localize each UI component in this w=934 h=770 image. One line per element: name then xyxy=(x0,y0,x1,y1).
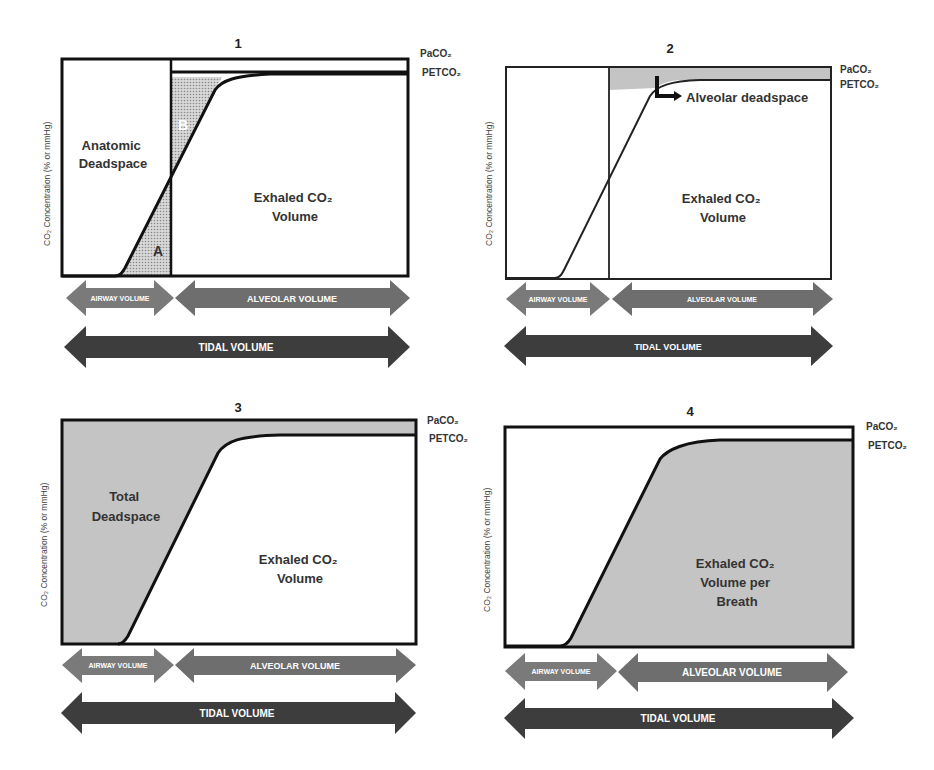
petco2-label: PETCO₂ xyxy=(840,79,879,90)
tidal-volume-label: TIDAL VOLUME xyxy=(634,342,701,352)
tidal-volume-label: TIDAL VOLUME xyxy=(200,708,275,719)
alveolar-volume-label: ALVEOLAR VOLUME xyxy=(687,296,757,303)
y-axis-label: CO₂ Concentration (% or mmHg) xyxy=(482,488,492,612)
capnogram-curve xyxy=(62,74,407,276)
y-axis-label: CO₂ Concentration (% or mmHg) xyxy=(484,122,494,246)
panel-1: 1 Anatomic Deadspace Exhaled CO₂ Volume … xyxy=(42,36,461,368)
panel-number: 3 xyxy=(234,400,241,415)
petco2-label: PETCO₂ xyxy=(429,433,468,444)
exhaled-co2-area xyxy=(562,441,853,647)
paco2-label: PaCO₂ xyxy=(420,48,452,59)
alveolar-deadspace-area xyxy=(609,67,831,90)
paco2-label: PaCO₂ xyxy=(840,64,872,75)
panel-4: 4 Exhaled CO₂ Volume per Breath PaCO₂ PE… xyxy=(482,404,907,739)
total-deadspace-area xyxy=(62,420,415,644)
airway-volume-label: AIRWAY VOLUME xyxy=(89,662,148,669)
airway-volume-label: AIRWAY VOLUME xyxy=(91,295,150,302)
capnogram-curve xyxy=(506,80,831,278)
airway-volume-label: AIRWAY VOLUME xyxy=(529,296,588,303)
panel-number: 2 xyxy=(666,41,673,56)
exhaled-co2-label: Exhaled CO₂ Volume xyxy=(254,190,336,224)
panel-2: 2 Alveolar deadspace Exhaled CO₂ Volume … xyxy=(484,41,879,366)
exhaled-co2-label: Exhaled CO₂ Volume xyxy=(682,191,764,225)
tidal-volume-label: TIDAL VOLUME xyxy=(641,713,716,724)
panel-number: 4 xyxy=(686,404,694,419)
airway-volume-label: AIRWAY VOLUME xyxy=(532,668,591,675)
capnography-diagram: 1 Anatomic Deadspace Exhaled CO₂ Volume … xyxy=(0,0,934,770)
y-axis-label: CO₂ Concentration (% or mmHg) xyxy=(39,483,49,607)
alveolar-volume-label: ALVEOLAR VOLUME xyxy=(250,661,340,671)
paco2-label: PaCO₂ xyxy=(427,415,459,426)
alveolar-volume-label: ALVEOLAR VOLUME xyxy=(682,667,782,678)
pointer-arrowhead-icon xyxy=(674,91,682,101)
area-a-label: A xyxy=(153,243,163,259)
tidal-volume-label: TIDAL VOLUME xyxy=(199,342,274,353)
anatomic-deadspace-label: Anatomic Deadspace xyxy=(79,138,148,171)
y-axis-label: CO₂ Concentration (% or mmHg) xyxy=(42,122,52,246)
petco2-label: PETCO₂ xyxy=(422,67,461,78)
panel-3: 3 Total Deadspace Exhaled CO₂ Volume PaC… xyxy=(39,400,468,734)
panel-number: 1 xyxy=(234,36,241,51)
exhaled-co2-label: Exhaled CO₂ Volume xyxy=(259,552,341,586)
alveolar-deadspace-label: Alveolar deadspace xyxy=(686,90,808,105)
paco2-label: PaCO₂ xyxy=(866,421,898,432)
area-b-label: B xyxy=(178,117,188,133)
alveolar-volume-label: ALVEOLAR VOLUME xyxy=(247,294,337,304)
petco2-label: PETCO₂ xyxy=(868,440,907,451)
